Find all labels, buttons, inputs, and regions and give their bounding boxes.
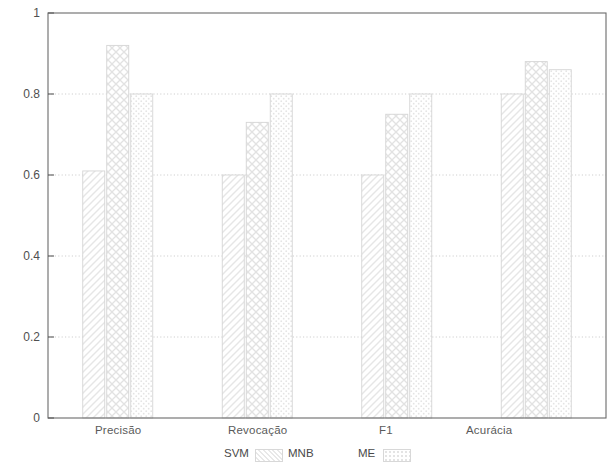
legend-label-mnb: MNB (288, 447, 314, 459)
y-tick-label: 0.8 (23, 87, 40, 101)
axis-ticks (48, 13, 54, 418)
bar-svm-1 (222, 175, 244, 418)
plot-area (0, 0, 613, 464)
bar-me-0 (131, 94, 153, 418)
x-axis-label-precisao: Precisão (95, 424, 141, 436)
x-axis-label-revocacao: Revocação (228, 424, 287, 436)
legend-swatch-svm (255, 449, 283, 462)
bar-svm-2 (362, 175, 384, 418)
y-tick-label: 0.2 (23, 330, 40, 344)
bar-me-2 (410, 94, 432, 418)
x-axis-label-acuracia: Acurácia (466, 424, 512, 436)
y-tick-label: 1 (33, 6, 40, 20)
y-tick-label: 0.6 (23, 168, 40, 182)
legend-label-me: ME (358, 447, 375, 459)
bar-mnb-3 (525, 62, 547, 418)
bar-mnb-2 (386, 114, 408, 418)
y-tick-label: 0.4 (23, 249, 40, 263)
legend-swatch-me (383, 449, 411, 462)
bar-mnb-1 (246, 122, 268, 418)
bar-svm-3 (501, 94, 523, 418)
bar-mnb-0 (107, 45, 129, 418)
legend-label-svm: SVM (224, 447, 249, 459)
bar-me-1 (270, 94, 292, 418)
bar-me-3 (549, 70, 571, 418)
bar-svm-0 (83, 171, 105, 418)
x-axis-label-f1: F1 (379, 424, 393, 436)
bar-series-group (83, 45, 572, 418)
y-tick-label: 0 (33, 411, 40, 425)
y-axis-tick-labels: 1 0.8 0.6 0.4 0.2 0 (0, 0, 40, 464)
bar-chart: 1 0.8 0.6 0.4 0.2 0 Precis (0, 0, 613, 464)
